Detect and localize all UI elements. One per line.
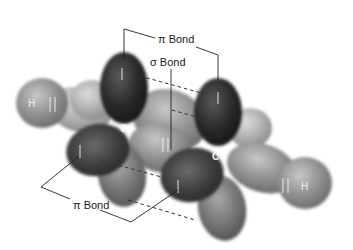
p-orbital-top-right — [194, 78, 242, 146]
hydrogen-left: H — [16, 78, 68, 128]
sigma-bond-label: σ Bond — [150, 56, 186, 68]
p-orbital-top-left — [100, 52, 148, 124]
carbon-left-label: C — [120, 123, 127, 134]
hydrogen-left-label: H — [28, 98, 35, 109]
pi-bond-top-label: π Bond — [158, 33, 194, 45]
carbon-right-label: C — [212, 151, 219, 162]
orbital-diagram-svg: H H C C — [0, 0, 353, 250]
pi-bond-bottom-label: π Bond — [73, 199, 109, 211]
orbital-diagram: H H C C — [0, 0, 353, 250]
hydrogen-right: H — [278, 157, 332, 209]
hydrogen-right-label: H — [301, 181, 308, 192]
hydrogen-left-sphere — [16, 78, 68, 128]
